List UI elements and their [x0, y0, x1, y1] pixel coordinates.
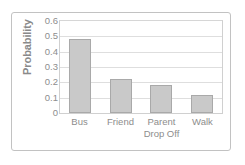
x-axis-tick-label-line: Friend	[100, 116, 141, 128]
bar-parent-drop-off	[150, 85, 172, 113]
y-axis-tick-labels: 0.60.50.40.30.20.10	[36, 20, 58, 114]
x-axis-tick-label: Bus	[59, 116, 100, 139]
x-axis-tick-label-line: Parent	[141, 116, 182, 128]
y-axis-tick-label: 0.6	[36, 16, 58, 26]
bar-bus	[69, 39, 91, 113]
bar-slot	[141, 21, 182, 113]
x-axis-tick-label: Friend	[100, 116, 141, 139]
x-axis-tick-label: ParentDrop Off	[141, 116, 182, 139]
bar-walk	[191, 95, 213, 113]
x-axis-tick-label-line: Walk	[182, 116, 223, 128]
x-axis-tick-label-line: Bus	[59, 116, 100, 128]
y-axis-tick-label: 0.2	[36, 78, 58, 88]
bar-slot	[182, 21, 223, 113]
y-axis-tick-label: 0.3	[36, 62, 58, 72]
x-axis-tick-label-line: Drop Off	[141, 128, 182, 140]
bar-friend	[110, 79, 132, 113]
x-axis-tick-labels: BusFriendParentDrop OffWalk	[59, 116, 223, 139]
y-axis-tick-label: 0.4	[36, 47, 58, 57]
y-axis-tick-label: 0	[36, 108, 58, 118]
bar-slot	[101, 21, 142, 113]
chart-figure-frame: Probability 0.60.50.40.30.20.10 BusFrien…	[11, 12, 231, 151]
y-axis-tick-label: 0.5	[36, 32, 58, 42]
y-axis-title: Probability	[21, 4, 33, 90]
y-axis-tick-label: 0.1	[36, 93, 58, 103]
bar-slot	[60, 21, 101, 113]
x-axis-tick-label: Walk	[182, 116, 223, 139]
plot-area	[59, 20, 223, 114]
bar-series	[60, 21, 222, 113]
